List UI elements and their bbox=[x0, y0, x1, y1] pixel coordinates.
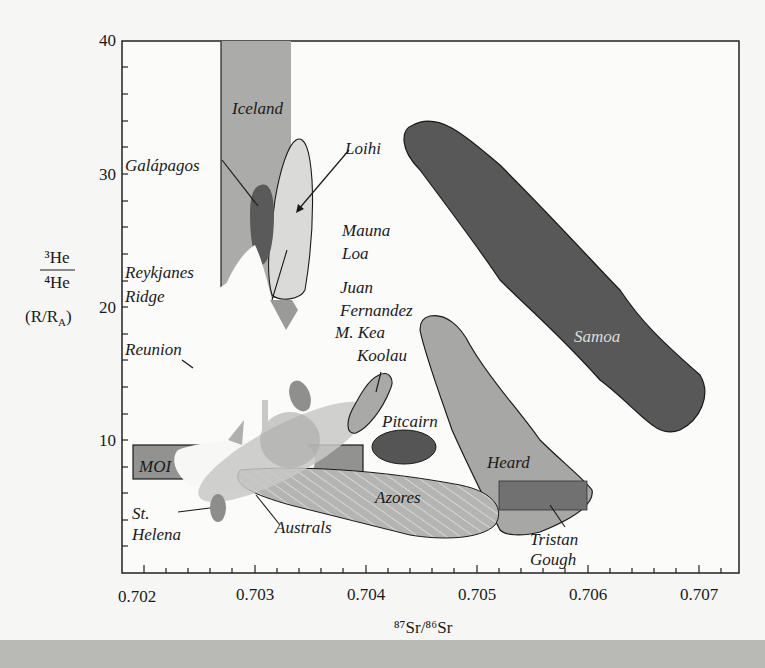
y-tick-20: 20 bbox=[99, 298, 116, 317]
label-st: St. bbox=[132, 504, 149, 523]
x-tick-0702: 0.702 bbox=[118, 587, 156, 606]
x-tick-0706: 0.706 bbox=[569, 585, 607, 604]
label-azores: Azores bbox=[374, 488, 421, 507]
label-samoa: Samoa bbox=[574, 327, 620, 346]
label-tristan: Tristan bbox=[530, 530, 578, 549]
label-mkea: M. Kea bbox=[334, 323, 385, 342]
label-pitcairn: Pitcairn bbox=[381, 412, 438, 431]
label-heard: Heard bbox=[486, 453, 530, 472]
label-reykjanes: Reykjanes bbox=[124, 263, 194, 282]
label-iceland: Iceland bbox=[231, 99, 283, 118]
region-tristan-gough bbox=[499, 481, 587, 510]
label-loihi: Loihi bbox=[344, 139, 381, 158]
x-axis-title: ⁸⁷Sr/⁸⁶Sr bbox=[394, 618, 453, 637]
x-tick-0705: 0.705 bbox=[458, 585, 496, 604]
y-axis-title-top: ³He bbox=[45, 248, 70, 267]
label-helena: Helena bbox=[131, 525, 181, 544]
label-fernandez: Fernandez bbox=[339, 301, 413, 320]
region-pitcairn bbox=[372, 430, 436, 464]
y-tick-30: 30 bbox=[99, 165, 116, 184]
x-tick-0703: 0.703 bbox=[236, 585, 274, 604]
label-reunion: Reunion bbox=[124, 340, 182, 359]
label-loa: Loa bbox=[341, 244, 368, 263]
label-australs: Australs bbox=[274, 518, 332, 537]
x-tick-0707: 0.707 bbox=[680, 585, 719, 604]
label-juan: Juan bbox=[340, 278, 373, 297]
label-galapagos: Galápagos bbox=[125, 156, 200, 175]
y-axis-title-bottom: ⁴He bbox=[44, 273, 70, 292]
region-st-helena bbox=[210, 494, 226, 522]
y-axis-title-unit: (R/RA) bbox=[25, 307, 72, 328]
y-tick-40: 40 bbox=[99, 31, 116, 50]
label-ridge: Ridge bbox=[124, 287, 165, 306]
label-mauna: Mauna bbox=[341, 221, 390, 240]
x-tick-0704: 0.704 bbox=[347, 585, 386, 604]
label-morb: MOI bbox=[138, 457, 172, 476]
y-tick-10: 10 bbox=[99, 431, 116, 450]
label-gough: Gough bbox=[530, 550, 576, 569]
label-koolau: Koolau bbox=[356, 346, 407, 365]
chart: 40 30 20 10 0.702 0.703 0.704 0.705 0.70… bbox=[0, 0, 765, 668]
